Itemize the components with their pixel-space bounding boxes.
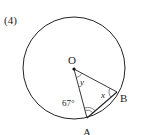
angle-label-y: y xyxy=(79,77,84,87)
label-O: O xyxy=(68,54,76,66)
center-point-O xyxy=(72,67,75,70)
angle-arc-A xyxy=(85,110,93,113)
angle-arc-x xyxy=(109,88,111,97)
angle-label-67: 67° xyxy=(62,98,75,108)
label-A: A xyxy=(83,126,91,135)
angle-label-x: x xyxy=(100,90,105,100)
label-B: B xyxy=(120,92,127,104)
circle-diagram: (4) O A B 67° y x xyxy=(0,0,143,135)
problem-number: (4) xyxy=(4,14,17,27)
